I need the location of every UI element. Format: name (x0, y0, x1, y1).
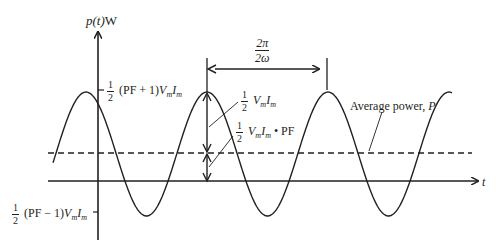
t-axis-label: t (482, 176, 485, 188)
avg-offset-leader (209, 136, 233, 167)
max-power-label: 12 (PF + 1)VmIm (107, 80, 182, 103)
y-axis-label: p(t)W (86, 14, 117, 27)
min-power-label: 12 (PF − 1)VmIm (12, 203, 87, 226)
period-label: 2π2ω (255, 37, 271, 64)
average-offset-label: 12 VmIm • PF (236, 121, 294, 144)
average-leader (369, 112, 382, 151)
power-waveform-diagram: p(t)W t 12 (PF + 1)VmIm 12 (PF − 1)VmIm … (0, 0, 496, 247)
amplitude-label: 12 VmIm (241, 90, 276, 113)
amplitude-leader (209, 102, 238, 127)
average-power-label: Average power, P (350, 100, 436, 112)
